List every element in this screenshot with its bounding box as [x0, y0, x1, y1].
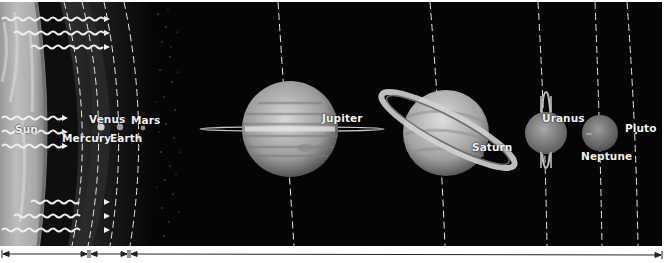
label-mars: Mars: [131, 114, 160, 126]
label-saturn: Saturn: [472, 141, 512, 153]
label-pluto: Pluto: [625, 122, 657, 134]
uranus-icon: [525, 92, 567, 168]
dimension-outer-planets-region: [130, 250, 662, 259]
label-uranus: Uranus: [542, 112, 585, 124]
mars-icon: [141, 126, 146, 131]
label-sun: Sun: [15, 123, 38, 135]
solar-system-diagram: Sun Mercury Venus Earth Mars Jupiter Sat…: [0, 2, 662, 246]
neptune-icon: [582, 115, 618, 151]
saturn-icon: [374, 81, 521, 180]
label-mercury: Mercury: [62, 132, 111, 144]
label-venus: Venus: [89, 113, 125, 125]
label-neptune: Neptune: [581, 150, 632, 162]
label-jupiter: Jupiter: [322, 112, 363, 124]
dimension-sun-region: [2, 250, 88, 258]
dimension-arrows: [0, 246, 666, 263]
label-earth: Earth: [110, 132, 142, 144]
dimension-inner-planets-region: [90, 250, 128, 258]
jupiter-icon: [200, 81, 384, 177]
